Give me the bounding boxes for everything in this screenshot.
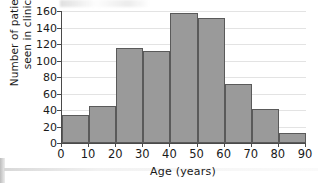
x-axis-tick-label: 80 [266,148,290,160]
x-axis-tick-label: 0 [49,148,73,160]
y-axis-tick-label: 20 [27,121,57,132]
bar-series [62,11,306,143]
y-axis-tick-label: 40 [27,105,57,116]
histogram-bar [89,106,116,143]
y-axis-label-line1: Number of patients [8,0,21,100]
y-axis-tick-label: 120 [27,39,57,50]
y-axis-tick-label: 0 [27,138,57,149]
y-axis-tick-label: 60 [27,88,57,99]
x-axis-tick-label: 20 [103,148,127,160]
histogram-figure: Number of patients seen in clinic 020406… [0,0,318,183]
y-axis-tick-label: 140 [27,22,57,33]
y-axis-tick-label: 160 [27,6,57,17]
histogram-bar [143,51,170,143]
histogram-bar [279,133,306,143]
x-axis-tick-label: 30 [130,148,154,160]
x-axis-tick-label: 70 [239,148,263,160]
histogram-bar [170,13,197,143]
x-axis-tick-label: 60 [212,148,236,160]
y-axis-tick-label: 80 [27,72,57,83]
y-axis-tick-label: 100 [27,55,57,66]
histogram-bar [252,109,279,143]
x-axis-tick-label: 10 [76,148,100,160]
x-axis-tick-label: 90 [293,148,317,160]
x-axis-tick-label: 40 [157,148,181,160]
x-axis-label: Age (years) [61,165,305,178]
x-axis-tick-label: 50 [185,148,209,160]
plot-area [61,11,306,144]
x-axis: Age (years) 0102030405060708090 [61,143,305,183]
histogram-bar [116,48,143,143]
histogram-bar [225,84,252,143]
histogram-bar [62,115,89,143]
scan-artifact-top [60,0,150,7]
scan-artifact-left-edge [0,158,5,183]
histogram-bar [198,18,225,143]
